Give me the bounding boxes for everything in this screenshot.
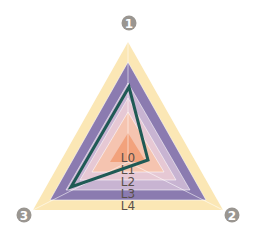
radar-chart: L0 L1 L2 L3 L4 1 2 3 (0, 0, 254, 237)
axis-badge-3: 3 (17, 208, 32, 223)
level-label-l4: L4 (121, 199, 135, 213)
axis-label-3: 3 (20, 209, 28, 223)
axis-badge-1: 1 (122, 16, 137, 31)
axis-label-2: 2 (228, 209, 236, 223)
axis-badge-2: 2 (225, 208, 240, 223)
axis-label-1: 1 (125, 17, 133, 31)
